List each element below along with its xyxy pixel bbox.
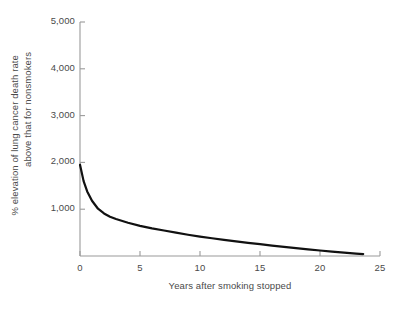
x-axis-tick-label: 5 [120, 262, 160, 273]
data-series-line [80, 165, 363, 254]
y-axis-label: % elevation of lung cancer death rate ab… [8, 0, 54, 270]
x-axis-tick-label: 0 [60, 262, 100, 273]
y-axis-label-line-1: % elevation of lung cancer death rate [10, 55, 20, 216]
y-axis-tick-label: 2,000 [22, 155, 75, 166]
x-axis-label: Years after smoking stopped [80, 280, 380, 291]
x-axis-tick-label: 10 [180, 262, 220, 273]
y-axis-tick-label: 5,000 [22, 15, 75, 26]
y-axis-tick-label: 4,000 [22, 62, 75, 73]
y-axis-tick-label: 3,000 [22, 109, 75, 120]
x-axis-tick-label: 20 [300, 262, 340, 273]
x-axis-tick-label: 25 [360, 262, 400, 273]
chart-figure: % elevation of lung cancer death rate ab… [0, 0, 420, 313]
y-axis-tick-label: 1,000 [22, 202, 75, 213]
x-axis-tick-label: 15 [240, 262, 280, 273]
